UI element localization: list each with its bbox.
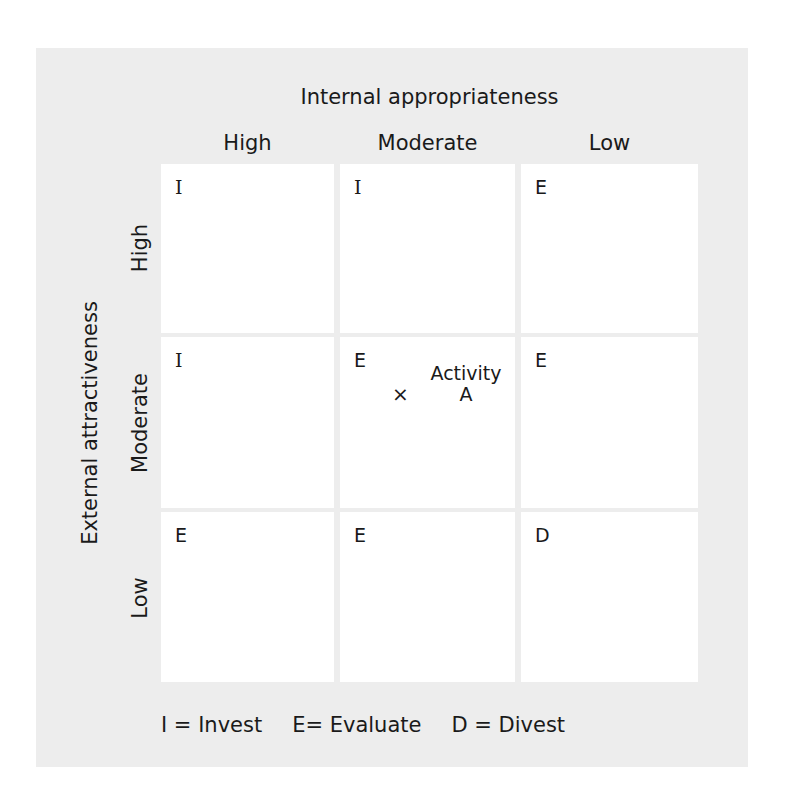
legend: I = Invest E= Evaluate D = Divest: [161, 712, 565, 738]
cell-code: E: [354, 524, 366, 546]
y-axis-title: External attractiveness: [77, 301, 103, 545]
cell-high-moderate: I: [340, 164, 515, 333]
legend-evaluate: E= Evaluate: [292, 712, 421, 738]
matrix-grid: I I E I E × Activity A E E E D: [161, 164, 698, 683]
legend-divest: D = Divest: [451, 712, 565, 738]
cell-code: I: [354, 176, 362, 198]
cell-code: E: [535, 176, 547, 198]
column-header-moderate: Moderate: [340, 130, 515, 156]
cell-code: E: [354, 349, 366, 371]
cell-low-high: E: [161, 512, 334, 682]
row-header-low: Low: [127, 577, 153, 618]
row-header-high: High: [127, 224, 153, 272]
activity-label-line1: Activity: [418, 363, 514, 384]
legend-invest: I = Invest: [161, 712, 262, 738]
activity-label: Activity A: [418, 363, 514, 405]
cell-code: E: [535, 349, 547, 371]
cell-low-low: D: [521, 512, 698, 682]
cell-code: E: [175, 524, 187, 546]
cell-high-high: I: [161, 164, 334, 333]
x-axis-title: Internal appropriateness: [161, 84, 698, 110]
activity-label-line2: A: [418, 384, 514, 405]
cell-low-moderate: E: [340, 512, 515, 682]
cell-code: I: [175, 176, 183, 198]
cell-high-low: E: [521, 164, 698, 333]
column-header-high: High: [161, 130, 334, 156]
cell-moderate-high: I: [161, 337, 334, 508]
cell-moderate-moderate: E × Activity A: [340, 337, 515, 508]
row-header-moderate: Moderate: [127, 373, 153, 473]
column-header-low: Low: [521, 130, 698, 156]
cell-moderate-low: E: [521, 337, 698, 508]
activity-marker-icon: ×: [392, 383, 409, 405]
cell-code: I: [175, 349, 183, 371]
cell-code: D: [535, 524, 550, 546]
